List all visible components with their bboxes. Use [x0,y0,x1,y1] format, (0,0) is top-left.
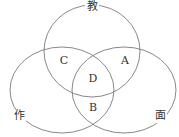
region-label-d: D [89,72,98,85]
set-label: 作 [14,109,25,122]
set-label: 面 [155,109,166,122]
region-label-a: A [120,54,130,67]
venn-diagram: 教作面CADB [0,0,179,137]
region-label-b: B [89,101,97,114]
venn-svg: 教作面CADB [0,0,179,137]
set-label: 教 [87,0,98,13]
region-label-c: C [60,54,68,67]
